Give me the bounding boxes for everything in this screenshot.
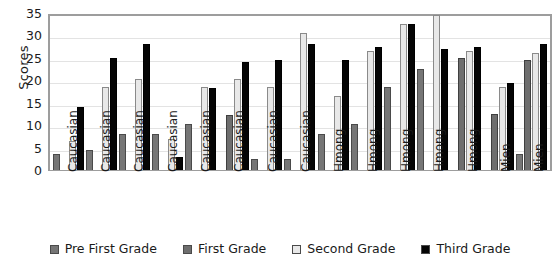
legend-label: Pre First Grade xyxy=(65,243,157,256)
x-axis-label: Caucasian xyxy=(267,110,279,172)
legend-label: Second Grade xyxy=(307,243,395,256)
bar-pre-first-grade[interactable] xyxy=(417,69,424,170)
x-axis-label-cell: Caucasian xyxy=(283,172,316,234)
chart-legend: Pre First GradeFirst GradeSecond GradeTh… xyxy=(0,243,560,256)
bar-first-grade[interactable] xyxy=(458,58,465,170)
bar-pre-first-grade[interactable] xyxy=(516,154,523,170)
x-axis-label: Caucasian xyxy=(67,110,79,172)
x-axis-label-cell: Mien xyxy=(517,172,550,234)
bar-pre-first-grade[interactable] xyxy=(284,159,291,170)
bar-pre-first-grade[interactable] xyxy=(384,87,391,170)
x-axis-labels: CaucasianCaucasianCaucasianCaucasianCauc… xyxy=(50,172,550,234)
y-axis-tick: 25 xyxy=(14,53,42,66)
x-axis-label: Caucasian xyxy=(233,110,245,172)
x-axis-label: Caucasian xyxy=(133,110,145,172)
y-axis-tick: 35 xyxy=(14,8,42,21)
legend-item[interactable]: Second Grade xyxy=(292,243,395,256)
bar-chart: Scores 05101520253035 CaucasianCaucasian… xyxy=(0,0,560,268)
bar-pre-first-grade[interactable] xyxy=(53,154,60,170)
bar-pre-first-grade[interactable] xyxy=(86,150,93,170)
legend-item[interactable]: Third Grade xyxy=(421,243,510,256)
x-axis-label: Caucasian xyxy=(100,110,112,172)
x-axis-label-cell: Caucasian xyxy=(217,172,250,234)
x-axis-label: Hmong xyxy=(333,129,345,172)
legend-item[interactable]: First Grade xyxy=(183,243,266,256)
y-axis-tick: 30 xyxy=(14,30,42,43)
x-axis-label-cell: Mien xyxy=(483,172,516,234)
legend-label: First Grade xyxy=(198,243,266,256)
legend-swatch-icon xyxy=(292,245,301,254)
x-axis-label: Caucasian xyxy=(200,110,212,172)
legend-swatch-icon xyxy=(183,245,192,254)
x-axis-label-cell: Caucasian xyxy=(117,172,150,234)
bar-pre-first-grade[interactable] xyxy=(185,124,192,170)
y-axis-tick: 5 xyxy=(14,143,42,156)
y-axis-tick: 15 xyxy=(14,98,42,111)
legend-swatch-icon xyxy=(50,245,59,254)
x-axis-label: Caucasian xyxy=(300,110,312,172)
x-axis-label-cell: Caucasian xyxy=(250,172,283,234)
x-axis-label: Caucasian xyxy=(167,110,179,172)
bar-first-grade[interactable] xyxy=(524,60,531,170)
x-axis-label-cell: Caucasian xyxy=(83,172,116,234)
bar-pre-first-grade[interactable] xyxy=(351,124,358,170)
x-axis-label-cell: Hmong xyxy=(450,172,483,234)
y-axis-tick: 10 xyxy=(14,120,42,133)
x-axis-label: Hmong xyxy=(367,129,379,172)
x-axis-label-cell: Caucasian xyxy=(50,172,83,234)
bar-pre-first-grade[interactable] xyxy=(251,159,258,170)
legend-item[interactable]: Pre First Grade xyxy=(50,243,157,256)
y-axis-tick: 20 xyxy=(14,75,42,88)
bar-first-grade[interactable] xyxy=(491,114,498,170)
x-axis-label: Hmong xyxy=(467,129,479,172)
x-axis-label-cell: Caucasian xyxy=(183,172,216,234)
x-axis-label: Hmong xyxy=(433,129,445,172)
bar-pre-first-grade[interactable] xyxy=(318,134,325,170)
bar-pre-first-grade[interactable] xyxy=(119,134,126,170)
x-axis-label-cell: Hmong xyxy=(350,172,383,234)
legend-label: Third Grade xyxy=(436,243,510,256)
x-axis-label-cell: Hmong xyxy=(383,172,416,234)
x-axis-label: Mien xyxy=(500,143,512,172)
x-axis-label-cell: Hmong xyxy=(317,172,350,234)
x-axis-label: Mien xyxy=(533,143,545,172)
bar-pre-first-grade[interactable] xyxy=(152,134,159,170)
x-axis-label: Hmong xyxy=(400,129,412,172)
y-axis-tick: 0 xyxy=(14,165,42,178)
x-axis-label-cell: Caucasian xyxy=(150,172,183,234)
legend-swatch-icon xyxy=(421,245,430,254)
x-axis-label-cell: Hmong xyxy=(417,172,450,234)
